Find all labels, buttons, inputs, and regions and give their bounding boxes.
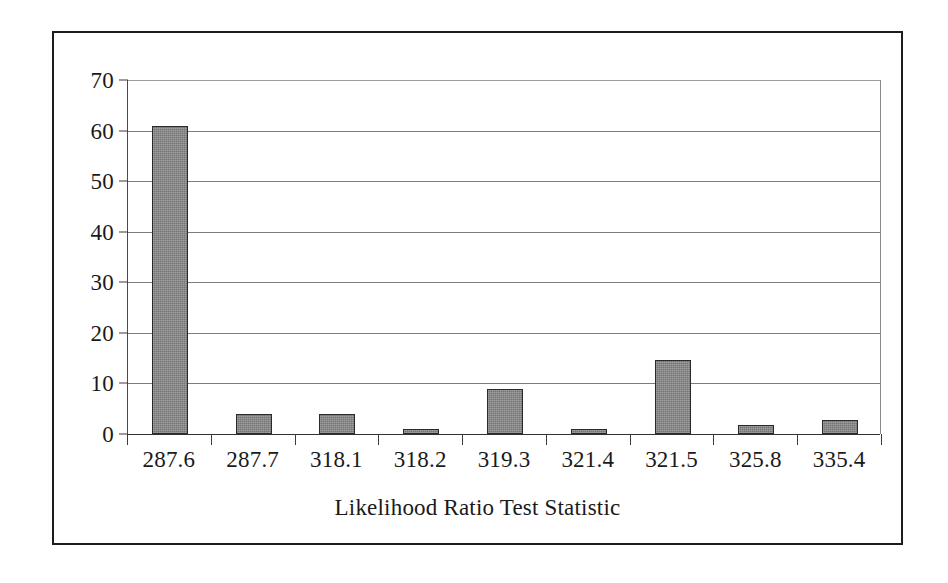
x-tick-mark <box>713 434 714 445</box>
x-tick-mark <box>295 434 296 445</box>
figure-frame: 010203040506070 287.6287.7318.1318.2319.… <box>52 31 903 545</box>
x-tick-label: 319.3 <box>478 448 531 471</box>
bar <box>738 425 774 434</box>
bar <box>152 126 188 434</box>
bars <box>128 80 880 434</box>
y-tick-label: 30 <box>90 271 128 294</box>
x-tick-label: 321.5 <box>645 448 698 471</box>
x-axis-title: Likelihood Ratio Test Statistic <box>54 495 901 521</box>
bar <box>487 389 523 435</box>
x-tick-label: 318.2 <box>394 448 447 471</box>
plot-area: 010203040506070 <box>127 80 881 434</box>
bar <box>571 429 607 434</box>
y-tick-label: 0 <box>102 423 128 446</box>
bar <box>319 414 355 434</box>
x-tick-label: 335.4 <box>813 448 866 471</box>
x-tick-mark <box>797 434 798 445</box>
x-tick-mark <box>378 434 379 445</box>
x-tick-label: 318.1 <box>310 448 363 471</box>
bar <box>822 420 858 434</box>
x-tick-mark <box>211 434 212 445</box>
y-tick-label: 10 <box>90 372 128 395</box>
bar <box>655 360 691 434</box>
bar <box>403 429 439 434</box>
bar-chart: 010203040506070 287.6287.7318.1318.2319.… <box>54 33 901 543</box>
y-tick-label: 50 <box>90 170 128 193</box>
y-tick-label: 70 <box>90 69 128 92</box>
x-tick-label: 325.8 <box>729 448 782 471</box>
y-tick-label: 20 <box>90 321 128 344</box>
x-tick-mark <box>462 434 463 445</box>
x-tick-mark <box>881 434 882 445</box>
x-tick-label: 287.7 <box>226 448 279 471</box>
gridline <box>128 434 880 435</box>
x-tick-label: 287.6 <box>143 448 196 471</box>
x-tick-label: 321.4 <box>561 448 614 471</box>
x-tick-mark <box>630 434 631 445</box>
bar <box>236 414 272 434</box>
x-tick-mark <box>546 434 547 445</box>
x-tick-mark <box>127 434 128 445</box>
y-tick-label: 60 <box>90 119 128 142</box>
y-tick-label: 40 <box>90 220 128 243</box>
